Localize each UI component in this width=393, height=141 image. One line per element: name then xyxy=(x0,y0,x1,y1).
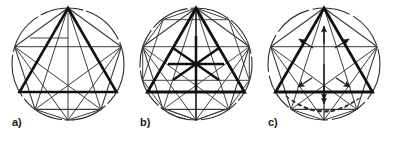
construction-figures-svg: a) xyxy=(0,0,393,141)
panel-a-label: a) xyxy=(12,116,22,128)
figure-sheet: a) xyxy=(0,0,393,141)
panel-b-label: b) xyxy=(140,116,151,128)
panel-c-label: c) xyxy=(268,116,278,128)
